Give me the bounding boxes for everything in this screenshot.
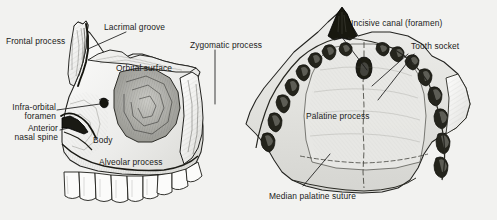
tooth bbox=[127, 176, 143, 202]
incisive-canal-inner bbox=[360, 62, 369, 76]
label-frontal-process: Frontal process bbox=[6, 37, 65, 47]
anatomy-figure: Frontal process Lacrimal groove Orbital … bbox=[0, 0, 497, 220]
label-infra-orbital-foramen-line2: foramen bbox=[0, 112, 56, 122]
tooth bbox=[143, 175, 158, 199]
panel-lateral-maxilla bbox=[61, 21, 203, 203]
label-lacrimal-groove: Lacrimal groove bbox=[104, 23, 165, 33]
label-incisive-canal: Incisive canal (foramen) bbox=[351, 19, 442, 29]
anatomy-drawing bbox=[0, 0, 497, 220]
tooth bbox=[95, 173, 112, 202]
tooth bbox=[157, 173, 172, 195]
label-median-palatine-suture: Median palatine suture bbox=[269, 192, 356, 202]
label-body: Body bbox=[93, 136, 113, 146]
label-zygomatic-process: Zygomatic process bbox=[190, 41, 262, 51]
tooth bbox=[79, 172, 96, 201]
label-alveolar-process: Alveolar process bbox=[99, 158, 163, 168]
label-orbital-surface: Orbital surface bbox=[116, 64, 172, 74]
tooth bbox=[111, 175, 128, 203]
tooth-canine bbox=[172, 169, 188, 190]
label-tooth-socket: Tooth socket bbox=[411, 42, 459, 52]
label-palatine-process: Palatine process bbox=[306, 112, 370, 122]
panel-palatal-maxillae bbox=[246, 7, 470, 193]
tooth bbox=[64, 172, 80, 199]
label-anterior-nasal-spine-line2: nasal spine bbox=[0, 133, 58, 143]
